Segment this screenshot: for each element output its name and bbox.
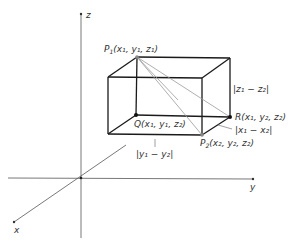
diagonal-p1-r bbox=[137, 57, 230, 117]
label-p2: P2(x₂, y₂, z₂) bbox=[200, 138, 254, 149]
origin-point bbox=[80, 177, 83, 180]
label-x-diff: |x₁ − x₂| bbox=[235, 125, 272, 135]
x-diff-leader bbox=[218, 125, 232, 129]
label-r: R(x₁, y₂, z₂) bbox=[235, 112, 286, 122]
diagonal-p1-mid bbox=[137, 57, 178, 100]
label-z-diff: |z₁ − z₂| bbox=[233, 84, 269, 94]
x-axis bbox=[14, 145, 126, 222]
label-p1: P1(x₁, y₁, z₁) bbox=[104, 44, 158, 55]
x-axis-tip bbox=[13, 221, 15, 223]
point-p2 bbox=[200, 133, 204, 137]
z-axis-label: z bbox=[85, 10, 91, 20]
y-axis-label: y bbox=[249, 182, 256, 192]
point-q bbox=[134, 113, 138, 117]
label-q: Q(x₁, y₁, z₂) bbox=[134, 119, 186, 129]
y-axis-tip bbox=[252, 178, 254, 180]
point-p1 bbox=[135, 55, 139, 59]
distance-3d-diagram: z y x P1(x₁, y₁, z₁) Q(x₁, y₁, z₂) bbox=[0, 0, 298, 241]
y-axis bbox=[8, 178, 253, 179]
label-y-diff: |y₁ − y₂| bbox=[136, 149, 173, 159]
x-axis-label: x bbox=[13, 225, 20, 235]
point-r bbox=[228, 115, 232, 119]
z-axis-tip bbox=[80, 13, 82, 15]
